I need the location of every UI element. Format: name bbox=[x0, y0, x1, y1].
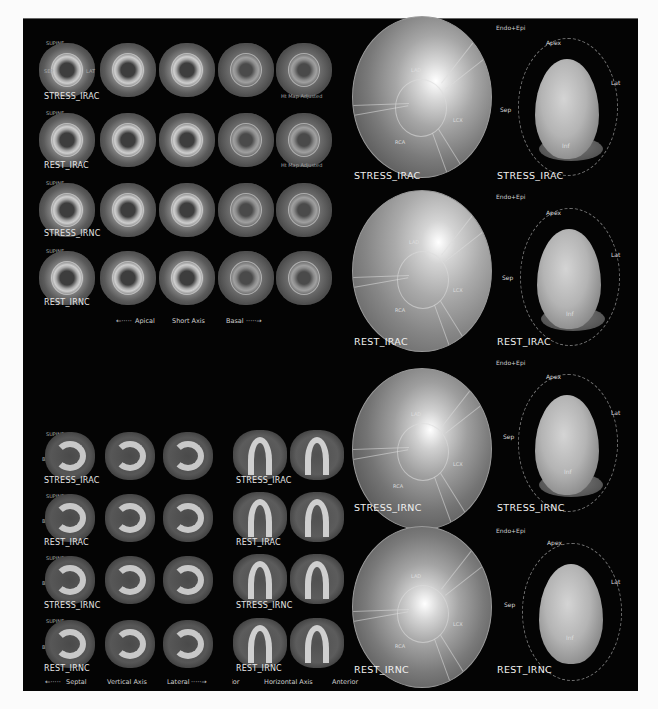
short-axis-slice[interactable] bbox=[100, 183, 156, 237]
axis-title: Horizontal Axis bbox=[264, 678, 313, 686]
row-label: STRESS_IRNC bbox=[44, 229, 100, 238]
row-label: REST_IRNC bbox=[44, 664, 90, 673]
polar-map[interactable]: LAD LCX RCA bbox=[352, 16, 492, 178]
polar-map-label: STRESS_IRNC bbox=[354, 502, 422, 513]
inf-label: Inf bbox=[566, 634, 574, 641]
horizontal-long-axis-slice[interactable] bbox=[290, 430, 344, 480]
short-axis-slice[interactable] bbox=[159, 183, 215, 237]
horizontal-long-axis-slice[interactable] bbox=[233, 492, 287, 542]
lat-label: Lat bbox=[611, 79, 620, 86]
rca-label: RCA bbox=[393, 483, 403, 489]
short-axis-slice[interactable] bbox=[276, 113, 332, 167]
lat-label: Lat bbox=[611, 409, 620, 416]
vertical-long-axis-slice[interactable] bbox=[163, 620, 213, 668]
vertical-long-axis-slice[interactable] bbox=[163, 556, 213, 604]
lv-3d-model[interactable] bbox=[522, 543, 622, 681]
vertical-long-axis-slice[interactable] bbox=[105, 556, 155, 604]
row-label: STRESS_IRNC bbox=[44, 601, 100, 610]
short-axis-slice[interactable] bbox=[218, 113, 274, 167]
short-axis-slice[interactable] bbox=[39, 113, 95, 167]
row-label: STRESS_IRAC bbox=[44, 92, 99, 101]
lad-label: LAD bbox=[411, 573, 421, 579]
sep-label: Sep bbox=[504, 601, 515, 608]
short-axis-slice[interactable] bbox=[159, 113, 215, 167]
lat-label: Lat bbox=[611, 578, 620, 585]
apex-label: Apex bbox=[546, 39, 561, 46]
lv-3d-label: STRESS_IRNC bbox=[497, 502, 565, 513]
axis-label-lateral: Lateral bbox=[167, 678, 190, 686]
row-label: STRESS_IRAC bbox=[236, 476, 291, 485]
vertical-long-axis-slice[interactable] bbox=[45, 432, 95, 480]
sep-label: Sep bbox=[500, 106, 511, 113]
vertical-long-axis-slice[interactable] bbox=[45, 556, 95, 604]
polar-map-label: REST_IRAC bbox=[354, 336, 408, 347]
row-label: STRESS_IRAC bbox=[44, 476, 99, 485]
axis-label-apical: Apical bbox=[135, 317, 155, 325]
short-axis-slice[interactable] bbox=[218, 43, 274, 97]
row-label: REST_IRAC bbox=[44, 161, 89, 170]
row-label: REST_IRNC bbox=[44, 298, 90, 307]
axis-label-inferior: Inferior bbox=[232, 678, 239, 686]
axis-title: Vertical Axis bbox=[107, 678, 147, 686]
endo-epi-mode: Endo+Epi bbox=[496, 193, 525, 200]
vertical-long-axis-slice[interactable] bbox=[105, 620, 155, 668]
rca-label: RCA bbox=[395, 139, 405, 145]
polar-map-label: REST_IRNC bbox=[354, 664, 409, 675]
vertical-long-axis-slice[interactable] bbox=[45, 620, 95, 668]
inf-label: Inf bbox=[566, 310, 574, 317]
lcx-label: LCX bbox=[453, 117, 463, 123]
axis-arrow-right: ·····→ bbox=[246, 317, 262, 325]
polar-map-label: STRESS_IRAC bbox=[354, 170, 421, 181]
polar-map[interactable]: LAD LCX RCA bbox=[352, 190, 492, 352]
sep-label: Sep bbox=[502, 274, 513, 281]
lat-label: LAT bbox=[86, 68, 95, 74]
short-axis-slice[interactable] bbox=[100, 43, 156, 97]
horizontal-long-axis-slice[interactable] bbox=[233, 554, 287, 604]
endo-epi-mode: Endo+Epi bbox=[496, 359, 525, 366]
horizontal-long-axis-slice[interactable] bbox=[290, 492, 344, 542]
lv-3d-label: REST_IRAC bbox=[497, 336, 551, 347]
lv-3d-label: STRESS_IRAC bbox=[497, 170, 564, 181]
short-axis-slice[interactable] bbox=[218, 251, 274, 305]
lat-label: Lat bbox=[611, 251, 620, 258]
lv-3d-model[interactable] bbox=[518, 374, 618, 512]
row-label: REST_IRAC bbox=[44, 538, 89, 547]
horizontal-long-axis-slice[interactable] bbox=[290, 618, 344, 668]
short-axis-slice[interactable] bbox=[276, 43, 332, 97]
horizontal-long-axis-slice[interactable] bbox=[290, 554, 344, 604]
axis-label-anterior: Anterior bbox=[332, 678, 358, 686]
vertical-long-axis-slice[interactable] bbox=[45, 494, 95, 542]
short-axis-slice[interactable] bbox=[218, 183, 274, 237]
lcx-label: LCX bbox=[453, 287, 463, 293]
lcx-label: LCX bbox=[453, 461, 463, 467]
row-label: STRESS_IRNC bbox=[236, 601, 292, 610]
short-axis-slice[interactable] bbox=[159, 43, 215, 97]
short-axis-slice[interactable] bbox=[100, 113, 156, 167]
inf-label: Inf bbox=[564, 468, 572, 475]
horizontal-axis-legend: Inferior Horizontal Axis Anterior bbox=[232, 676, 360, 688]
lv-3d-model[interactable] bbox=[520, 208, 620, 346]
apex-label: Apex bbox=[547, 539, 562, 546]
row-label: REST_IRAC bbox=[236, 538, 281, 547]
apex-label: Apex bbox=[546, 209, 561, 216]
short-axis-slice[interactable] bbox=[100, 251, 156, 305]
vertical-long-axis-slice[interactable] bbox=[105, 432, 155, 480]
lv-3d-model[interactable] bbox=[518, 38, 618, 176]
axis-arrow-left: ←····· bbox=[45, 678, 61, 686]
vertical-long-axis-slice[interactable] bbox=[163, 432, 213, 480]
rca-label: RCA bbox=[395, 643, 405, 649]
short-axis-slice[interactable] bbox=[276, 251, 332, 305]
axis-title: Short Axis bbox=[172, 317, 205, 325]
map-adjusted-note: Ht Map Adjusted bbox=[281, 93, 322, 99]
sep-label: Sep bbox=[503, 433, 514, 440]
short-axis-slice[interactable] bbox=[39, 251, 95, 305]
vertical-long-axis-slice[interactable] bbox=[163, 494, 213, 542]
inf-label: Inf bbox=[562, 142, 570, 149]
vertical-long-axis-slice[interactable] bbox=[105, 494, 155, 542]
horizontal-long-axis-slice[interactable] bbox=[233, 430, 287, 480]
horizontal-long-axis-slice[interactable] bbox=[233, 618, 287, 668]
lcx-label: LCX bbox=[453, 621, 463, 627]
short-axis-slice[interactable] bbox=[159, 251, 215, 305]
lad-label: LAD bbox=[411, 67, 421, 73]
short-axis-slice[interactable] bbox=[276, 183, 332, 237]
